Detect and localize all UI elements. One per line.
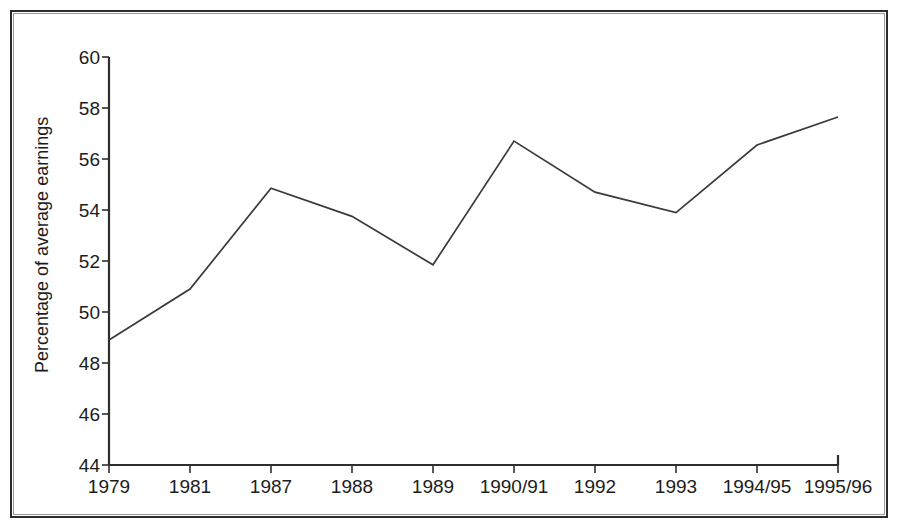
- x-tick-label: 1993: [655, 476, 697, 497]
- x-tick-label: 1987: [250, 476, 292, 497]
- line-chart: Percentage of average earnings 60 58 56 …: [0, 0, 901, 528]
- y-tick-label: 58: [79, 98, 100, 119]
- y-axis-tick-labels: 60 58 56 54 52 50 48 46 44: [79, 47, 101, 476]
- x-tick-label: 1995/96: [804, 476, 873, 497]
- y-tick-label: 60: [79, 47, 100, 68]
- y-tick-label: 44: [79, 455, 101, 476]
- x-tick-label: 1994/95: [723, 476, 792, 497]
- x-tick-label: 1990/91: [480, 476, 549, 497]
- x-tick-label: 1981: [169, 476, 211, 497]
- y-tick-label: 56: [79, 149, 100, 170]
- x-tick-label: 1988: [331, 476, 373, 497]
- y-tick-label: 52: [79, 251, 100, 272]
- x-tick-label: 1989: [412, 476, 454, 497]
- series-line-earnings: [109, 117, 838, 340]
- y-tick-label: 46: [79, 404, 100, 425]
- x-axis-ticks: [109, 465, 838, 473]
- y-tick-label: 48: [79, 353, 100, 374]
- x-tick-label: 1992: [574, 476, 616, 497]
- x-axis-tick-labels: 1979 1981 1987 1988 1989 1990/91 1992 19…: [88, 476, 872, 497]
- chart-svg: Percentage of average earnings 60 58 56 …: [0, 0, 901, 528]
- y-axis-title: Percentage of average earnings: [32, 117, 52, 373]
- y-tick-label: 50: [79, 302, 100, 323]
- chart-page: Percentage of average earnings 60 58 56 …: [0, 0, 901, 528]
- y-tick-label: 54: [79, 200, 101, 221]
- x-tick-label: 1979: [88, 476, 130, 497]
